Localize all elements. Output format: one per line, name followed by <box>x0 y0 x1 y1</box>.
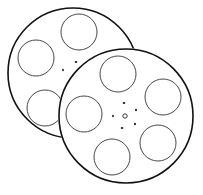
hub-dot <box>135 109 137 111</box>
back-reel-hub-dot <box>62 69 64 71</box>
front-reel-rim <box>59 49 193 183</box>
hub-dot <box>134 123 136 125</box>
hub-dot <box>123 102 126 104</box>
hub-dot <box>112 115 114 118</box>
front-reel <box>59 49 193 183</box>
film-reels-illustration <box>0 0 203 195</box>
back-reel-hub-dot <box>75 61 78 63</box>
hub-dot <box>121 127 124 129</box>
